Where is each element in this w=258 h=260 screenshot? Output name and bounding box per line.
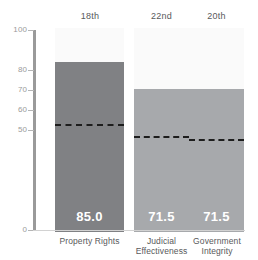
y-tick-50 xyxy=(28,130,34,131)
rank-label-judicial-effectiveness: 22nd xyxy=(134,10,189,22)
rank-label-government-integrity: 20th xyxy=(189,10,244,22)
bar-property-rights: 85.0 xyxy=(55,62,124,232)
bar-government-integrity: 71.5 xyxy=(189,89,244,232)
y-tick-label-60: 60 xyxy=(18,106,27,114)
bar-value-judicial-effectiveness: 71.5 xyxy=(134,209,189,224)
category-label-judicial-effectiveness: Judicial Effectiveness xyxy=(130,236,193,256)
y-tick-70 xyxy=(28,90,34,91)
reference-line-government-integrity xyxy=(189,139,244,141)
category-label-property-rights: Property Rights xyxy=(55,236,124,246)
rank-label-property-rights: 18th xyxy=(55,10,125,22)
y-tick-label-100: 100 xyxy=(13,26,27,34)
reference-line-judicial-effectiveness xyxy=(134,136,189,138)
y-tick-label-70: 70 xyxy=(18,86,27,94)
category-label-government-integrity: Government Integrity xyxy=(186,236,248,256)
reference-line-property-rights xyxy=(55,124,124,126)
y-tick-80 xyxy=(28,70,34,71)
bar-value-property-rights: 85.0 xyxy=(55,209,124,224)
category-row: Property Rights Judicial Effectiveness G… xyxy=(0,236,258,260)
rule-of-law-bar-chart: 18th 22nd 20th 100 80 70 60 50 0 85.0 71… xyxy=(0,0,258,260)
rank-row: 18th 22nd 20th xyxy=(0,10,258,26)
bar-judicial-effectiveness: 71.5 xyxy=(134,89,189,232)
baseline xyxy=(33,230,245,231)
y-tick-60 xyxy=(28,110,34,111)
y-tick-label-80: 80 xyxy=(18,66,27,74)
plot-area: 100 80 70 60 50 0 85.0 71.5 71.5 xyxy=(0,28,258,232)
bar-value-government-integrity: 71.5 xyxy=(189,209,244,224)
y-tick-label-50: 50 xyxy=(18,126,27,134)
y-tick-100 xyxy=(28,30,34,31)
y-tick-label-0: 0 xyxy=(22,226,27,234)
